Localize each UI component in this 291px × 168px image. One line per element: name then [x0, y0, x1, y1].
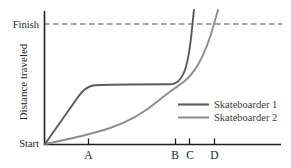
legend-label-skateboarder-1: Skateboarder 1: [214, 99, 277, 110]
x-tick-label-d: D: [210, 149, 218, 161]
start-label: Start: [19, 138, 39, 149]
y-axis-title: Distance traveled: [17, 43, 29, 120]
legend-label-skateboarder-2: Skateboarder 2: [214, 112, 277, 123]
finish-label: Finish: [13, 19, 40, 30]
chart-legend: Skateboarder 1 Skateboarder 2: [178, 99, 277, 123]
chart-plot-area: Distance traveled Finish Start A B C D S…: [0, 0, 291, 168]
x-tick-label-c: C: [186, 149, 194, 161]
x-tick-label-b: B: [171, 149, 179, 161]
x-tick-label-a: A: [84, 149, 93, 161]
skateboarder-distance-chart: Distance traveled Finish Start A B C D S…: [0, 0, 291, 168]
